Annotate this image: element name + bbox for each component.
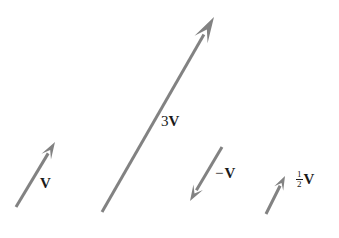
vector-label-v: V [40, 176, 51, 191]
vector-arrowhead--v [190, 184, 203, 201]
vector-label-negative-v-symbol: V [224, 165, 235, 181]
vector-label-3v-coefficient: 3 [161, 113, 169, 129]
vector-label-v-symbol: V [40, 175, 51, 191]
vector-label-3v: 3V [161, 114, 179, 129]
vector-label-negative-v: −V [215, 166, 235, 181]
vector-shaft-0-5v [266, 186, 280, 214]
vector-arrows-group [16, 17, 285, 214]
fraction-one-half: 12 [296, 170, 303, 190]
vector-diagram-figure: V 3V −V 12V [0, 0, 339, 238]
vector-label-half-v-symbol: V [304, 171, 315, 187]
vector-label-half-v: 12V [296, 171, 314, 191]
fraction-denominator: 2 [296, 179, 303, 189]
vector-arrowhead-3v [195, 17, 214, 43]
vector-label-3v-symbol: V [169, 113, 180, 129]
fraction-numerator: 1 [296, 170, 303, 179]
vector-arrowhead-v [42, 142, 55, 159]
vector-shaft-3v [102, 35, 204, 212]
